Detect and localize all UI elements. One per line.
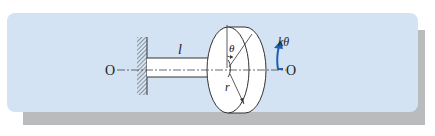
fixed-wall [137,37,147,95]
axis-label-left: O [105,63,115,78]
angle-label: θ [229,42,235,54]
axis-label-right: O [286,63,296,78]
shaft-length-label: l [178,42,182,57]
radius-label: r [225,80,230,94]
disk [207,25,266,113]
torque-label: kθ [278,35,289,49]
torsional-pendulum-diagram: O O l θ r kθ [0,0,435,136]
